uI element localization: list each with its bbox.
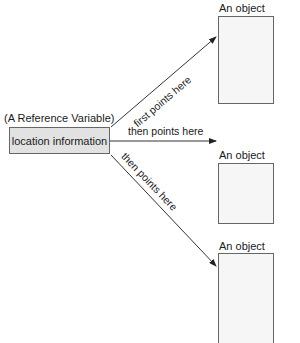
object-box-3	[218, 253, 274, 343]
object-label-3: An object	[219, 240, 265, 252]
object-label-2: An object	[219, 149, 265, 161]
object-label-1: An object	[219, 2, 265, 14]
arrow-third	[111, 155, 216, 266]
reference-caption: (A Reference Variable)	[4, 112, 114, 124]
reference-box-label: location information	[12, 135, 107, 147]
arrow-first	[111, 37, 216, 127]
object-box-2	[218, 163, 274, 224]
arrow-label-second: then points here	[128, 125, 203, 137]
object-box-1	[218, 16, 274, 104]
reference-box: location information	[9, 127, 110, 154]
